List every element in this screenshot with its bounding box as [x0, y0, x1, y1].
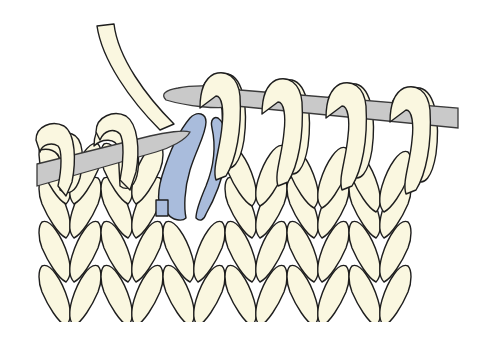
working-yarn [97, 24, 174, 130]
knitting-diagram [0, 0, 491, 355]
